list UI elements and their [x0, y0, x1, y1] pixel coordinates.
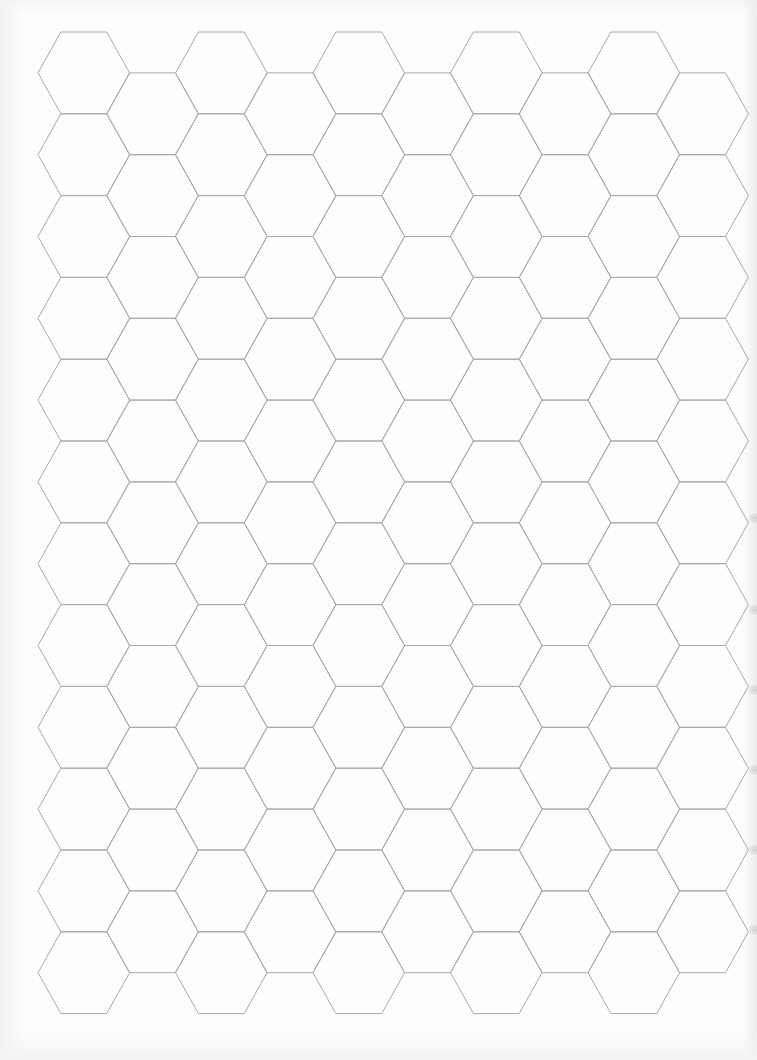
- hex-cell: [107, 646, 199, 728]
- hex-cell: [38, 196, 130, 278]
- hex-cell: [519, 400, 611, 482]
- hex-cell: [657, 727, 749, 809]
- hex-cell: [244, 809, 336, 891]
- hex-cell: [313, 850, 405, 932]
- hex-cell: [657, 400, 749, 482]
- hex-cell: [38, 605, 130, 687]
- hex-cell: [657, 564, 749, 646]
- hex-cell: [451, 850, 543, 932]
- hex-cell: [244, 155, 336, 237]
- hex-cell: [588, 605, 680, 687]
- hex-cell: [176, 32, 268, 114]
- hex-cell: [451, 523, 543, 605]
- hex-cell: [107, 318, 199, 400]
- hex-cell: [382, 318, 474, 400]
- hex-cell: [657, 646, 749, 728]
- hex-cell: [244, 237, 336, 319]
- hex-cell: [244, 891, 336, 973]
- hex-cell: [588, 850, 680, 932]
- hex-grid: [0, 0, 757, 1060]
- hex-cell: [244, 646, 336, 728]
- hex-cell: [451, 359, 543, 441]
- hex-cell: [657, 318, 749, 400]
- hex-cell: [313, 686, 405, 768]
- hex-cell: [657, 155, 749, 237]
- hex-cell: [519, 727, 611, 809]
- hex-cell: [313, 523, 405, 605]
- hex-cell: [519, 318, 611, 400]
- hex-cell: [382, 482, 474, 564]
- hex-cell: [657, 482, 749, 564]
- hex-cell: [176, 686, 268, 768]
- hex-cell: [451, 441, 543, 523]
- hex-cell: [519, 155, 611, 237]
- hex-cell: [38, 850, 130, 932]
- hex-cell: [657, 73, 749, 155]
- hex-cell: [588, 196, 680, 278]
- hex-cell: [107, 73, 199, 155]
- hex-cell: [382, 237, 474, 319]
- hex-cell: [244, 73, 336, 155]
- hex-cell: [451, 932, 543, 1014]
- hex-cell: [313, 932, 405, 1014]
- hex-cell: [107, 155, 199, 237]
- hex-cell: [588, 359, 680, 441]
- hex-cell: [588, 768, 680, 850]
- hex-cell: [176, 277, 268, 359]
- hex-cell: [107, 564, 199, 646]
- hex-cell: [244, 564, 336, 646]
- hex-cell: [519, 73, 611, 155]
- hex-cell: [38, 686, 130, 768]
- hex-cell: [657, 891, 749, 973]
- hex-cell: [588, 523, 680, 605]
- hex-cell: [38, 441, 130, 523]
- hex-cell: [313, 605, 405, 687]
- hex-cell: [382, 809, 474, 891]
- hex-cell: [519, 891, 611, 973]
- hex-cell: [244, 727, 336, 809]
- hex-cell: [451, 32, 543, 114]
- hex-cell: [38, 32, 130, 114]
- hex-cell: [38, 768, 130, 850]
- hex-cell: [244, 482, 336, 564]
- hex-paper-sheet: [0, 0, 757, 1060]
- hex-cell: [176, 768, 268, 850]
- hex-cell: [519, 564, 611, 646]
- hex-cell: [176, 932, 268, 1014]
- hex-cell: [313, 441, 405, 523]
- hex-cell: [107, 809, 199, 891]
- hex-cell: [176, 359, 268, 441]
- hex-cell: [451, 277, 543, 359]
- hex-cell: [244, 400, 336, 482]
- hex-cell: [107, 400, 199, 482]
- hex-cell: [519, 237, 611, 319]
- hex-cell: [313, 196, 405, 278]
- hex-cell: [38, 932, 130, 1014]
- hex-cell: [382, 400, 474, 482]
- hex-cell: [176, 441, 268, 523]
- hex-cell: [38, 359, 130, 441]
- hex-cell: [519, 482, 611, 564]
- hex-cell: [382, 646, 474, 728]
- hex-cell: [588, 932, 680, 1014]
- hex-cell: [176, 114, 268, 196]
- hex-cell: [588, 114, 680, 196]
- hex-cell: [588, 277, 680, 359]
- hex-cell: [313, 277, 405, 359]
- hex-cell: [451, 686, 543, 768]
- hex-cell: [107, 891, 199, 973]
- hex-cell: [176, 605, 268, 687]
- hex-cell: [588, 441, 680, 523]
- hex-cell: [451, 605, 543, 687]
- hex-cell: [107, 727, 199, 809]
- hex-cell: [588, 686, 680, 768]
- hex-cell: [38, 277, 130, 359]
- hex-cell: [451, 768, 543, 850]
- hex-cell: [451, 196, 543, 278]
- hex-cell: [244, 318, 336, 400]
- hex-cell: [176, 196, 268, 278]
- hex-cell: [313, 768, 405, 850]
- hex-cell: [657, 237, 749, 319]
- hex-cell: [382, 727, 474, 809]
- hex-cell: [176, 850, 268, 932]
